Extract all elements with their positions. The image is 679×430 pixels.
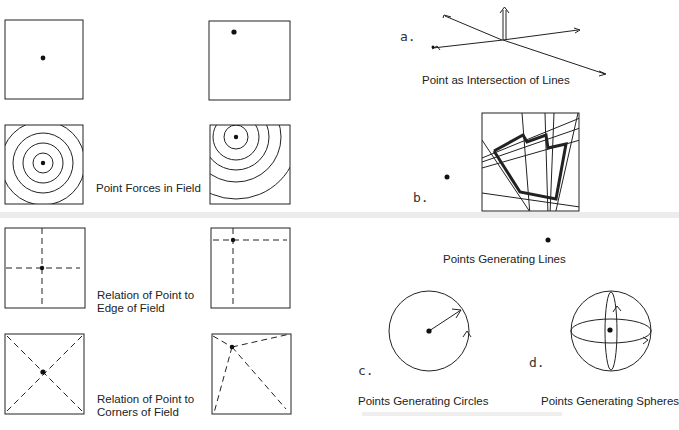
- label-corners-line2: Corners of Field: [97, 406, 179, 419]
- label-edge-line1: Relation of Point to: [97, 289, 194, 302]
- intersecting-lines: [432, 7, 606, 76]
- field-square: [212, 334, 291, 414]
- generated-polygon: [494, 135, 566, 199]
- field-square: [210, 125, 290, 204]
- diagram-canvas: [0, 0, 679, 430]
- caption-b: Points Generating Lines: [443, 253, 566, 266]
- caption-c: Points Generating Circles: [358, 395, 488, 408]
- letter-b: b.: [413, 190, 429, 205]
- letter-d: d.: [529, 355, 545, 370]
- caption-a: Point as Intersection of Lines: [422, 74, 570, 87]
- generated-lines: [482, 113, 580, 215]
- letter-c: c.: [358, 363, 374, 378]
- field-square: [209, 21, 290, 100]
- label-edge-line2: Edge of Field: [97, 302, 165, 315]
- letter-a: a.: [400, 29, 416, 44]
- caption-d: Points Generating Spheres: [541, 395, 679, 408]
- label-point-forces: Point Forces in Field: [96, 182, 201, 195]
- label-corners-line1: Relation of Point to: [97, 393, 194, 406]
